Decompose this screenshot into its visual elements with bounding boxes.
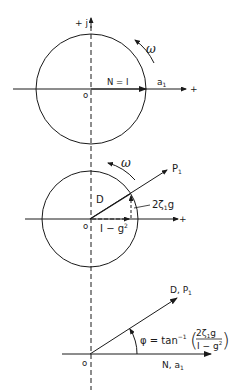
vector-N-label: N = I (107, 77, 128, 87)
omega-label: ω (146, 42, 156, 56)
real-axis-plus: + (190, 84, 198, 94)
vector-end-label: a1 (157, 77, 167, 88)
phase-angle-arrow (130, 329, 133, 334)
origin-label-3: o (82, 358, 87, 368)
formula-denominator: I − g2 (197, 340, 222, 351)
base-label-N-a1: N, a1 (162, 360, 184, 371)
vector-label-D-P1: D, P1 (170, 285, 192, 296)
real-axis-plus-2: + (179, 214, 187, 224)
imag-axis-label: + j (75, 18, 88, 28)
imag-component-label: 2ζ1g (152, 199, 174, 211)
extended-label-P1: P1 (172, 163, 182, 175)
omega-label-2: ω (121, 156, 131, 170)
phase-formula: φ = tan−1 ( 2ζ1g I − g2 ) (140, 328, 229, 352)
origin-label-2: o (83, 221, 88, 231)
paren-right: ) (222, 328, 229, 352)
panel-2: + o D P1 2ζ1g I − g2 ω (25, 156, 187, 267)
phase-formula-lhs: φ = tan−1 (140, 333, 187, 346)
panel-1: + j + N = I o a1 ω (13, 18, 198, 144)
resultant-label-D: D (96, 194, 104, 205)
formula-numerator: 2ζ1g (196, 328, 216, 339)
panel-3: o D, P1 N, a1 φ = tan−1 ( 2ζ1g I − g2 ) (62, 285, 229, 371)
phasor-diagram: + j + N = I o a1 ω + o D P1 2ζ1g I − g2 … (0, 0, 229, 390)
phase-angle-arc (130, 329, 137, 354)
real-component-label: I − g2 (100, 222, 128, 234)
origin-label: o (83, 90, 88, 100)
